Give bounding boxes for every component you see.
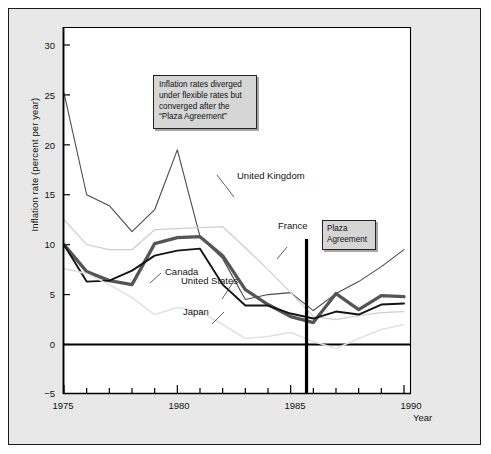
- plaza-line-2: Agreement: [327, 235, 371, 246]
- annotation-line-1: Inflation rates diverged: [159, 80, 251, 91]
- plaza-line-1: Plaza: [327, 224, 371, 235]
- annotation-callout: Inflation rates diverged under flexible …: [153, 75, 257, 129]
- series-label-france: France: [278, 220, 308, 231]
- plaza-agreement-label: Plaza Agreement: [322, 220, 376, 250]
- series-label-united-kingdom: United Kingdom: [237, 170, 305, 181]
- chart-canvas: Inflation rate (percent per year) Year 3…: [9, 9, 482, 446]
- annotation-line-4: “Plaza Agreement”: [159, 112, 251, 123]
- annotation-line-2: under flexible rates but: [159, 91, 251, 102]
- series-label-japan: Japan: [183, 306, 209, 317]
- annotation-line-3: converged after the: [159, 102, 251, 113]
- figure-frame: Inflation rate (percent per year) Year 3…: [8, 8, 481, 445]
- series-label-united-states: United States: [181, 275, 238, 286]
